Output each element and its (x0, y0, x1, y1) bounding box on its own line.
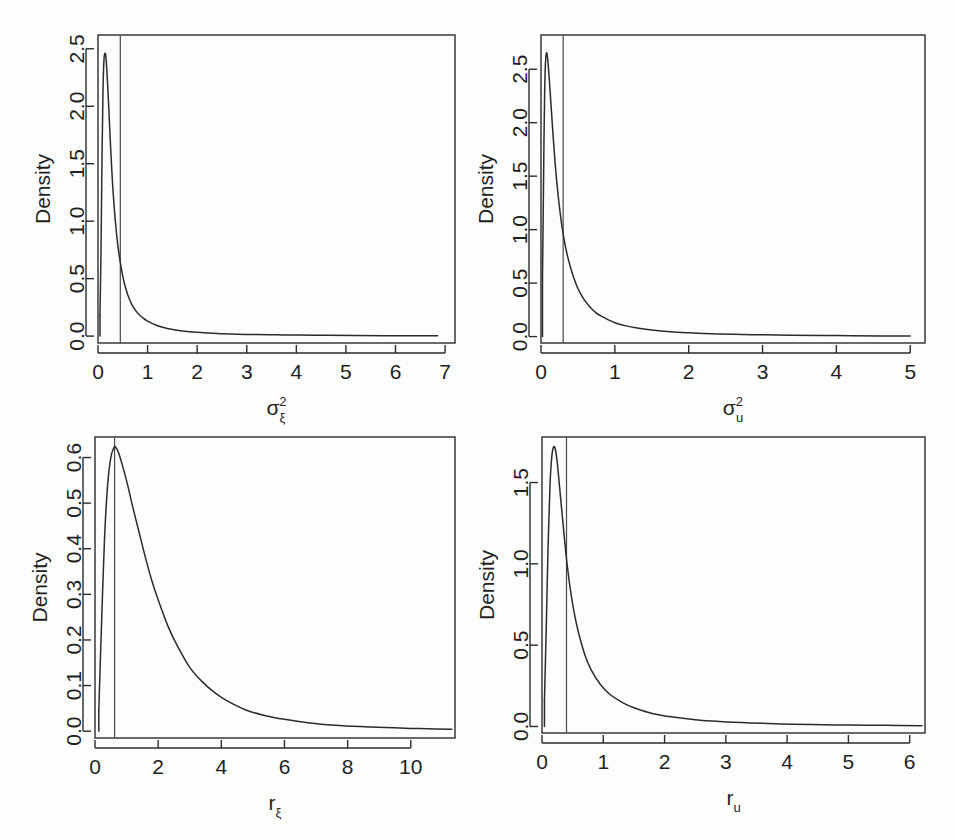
density-curve (100, 53, 438, 336)
y-tick-label: 0.0 (62, 717, 85, 746)
panel-plot-area-1: 0123450.00.51.01.52.02.5Densityσ2u (463, 19, 945, 421)
y-tick-label: 0.2 (62, 625, 85, 654)
density-panel-sigma2-xi: 012345670.00.51.01.52.02.5Densityσ2ξ (20, 19, 475, 421)
y-tick-label: 1.0 (509, 549, 532, 578)
x-tick-label: 0 (535, 360, 547, 383)
y-tick-label: 2.0 (65, 92, 88, 121)
plot-box (98, 35, 455, 343)
figure-canvas: 012345670.00.51.01.52.02.5Densityσ2ξ 012… (0, 0, 955, 840)
x-tick-label: 0 (92, 360, 104, 383)
x-tick-label: 3 (720, 750, 732, 773)
density-panel-sigma2-u: 0123450.00.51.01.52.02.5Densityσ2u (463, 19, 945, 421)
y-tick-label: 0.5 (509, 631, 532, 660)
x-tick-label: 1 (142, 360, 154, 383)
x-tick-label: 2 (683, 360, 695, 383)
x-tick-label: 1 (609, 360, 621, 383)
y-tick-label: 1.5 (508, 162, 531, 191)
y-axis-title: Density (475, 549, 498, 620)
y-tick-label: 1.0 (65, 207, 88, 236)
y-axis-title: Density (31, 153, 54, 224)
plot-box (95, 437, 455, 738)
x-tick-label: 10 (399, 755, 422, 778)
plot-box (542, 437, 925, 733)
density-curve (542, 53, 910, 336)
density-curve (99, 446, 452, 729)
y-tick-label: 0.0 (508, 322, 531, 351)
density-panel-r-xi: 02468100.00.10.20.30.40.50.6Densityrξ (17, 421, 475, 816)
x-axis-title: rξ (269, 791, 282, 820)
x-tick-label: 3 (757, 360, 769, 383)
y-tick-label: 0.5 (62, 489, 85, 518)
y-tick-label: 0.0 (65, 322, 88, 351)
y-tick-label: 0.1 (62, 671, 85, 700)
panel-plot-area-3: 01234560.00.51.01.5Densityru (464, 421, 945, 811)
x-tick-label: 1 (597, 750, 609, 773)
x-tick-label: 7 (439, 360, 451, 383)
x-tick-label: 5 (904, 360, 916, 383)
x-tick-label: 2 (191, 360, 203, 383)
x-tick-label: 5 (843, 750, 855, 773)
x-tick-label: 3 (241, 360, 253, 383)
x-tick-label: 8 (342, 755, 354, 778)
y-tick-label: 2.0 (508, 108, 531, 137)
y-tick-label: 1.5 (65, 149, 88, 178)
x-tick-label: 4 (831, 360, 843, 383)
x-tick-label: 4 (781, 750, 793, 773)
density-curve (544, 446, 921, 725)
x-tick-label: 6 (904, 750, 916, 773)
y-tick-label: 2.5 (65, 34, 88, 63)
y-tick-label: 0.5 (508, 269, 531, 298)
y-tick-label: 0.6 (62, 443, 85, 472)
x-tick-label: 4 (215, 755, 227, 778)
y-tick-label: 1.5 (509, 468, 532, 497)
x-tick-label: 5 (340, 360, 352, 383)
y-tick-label: 2.5 (508, 55, 531, 84)
y-tick-label: 0.3 (62, 580, 85, 609)
y-axis-title: Density (28, 552, 51, 623)
y-tick-label: 0.5 (65, 264, 88, 293)
panel-plot-area-2: 02468100.00.10.20.30.40.50.6Densityrξ (17, 421, 475, 816)
y-tick-label: 0.4 (62, 534, 85, 564)
x-tick-label: 0 (89, 755, 101, 778)
x-tick-label: 4 (290, 360, 302, 383)
y-tick-label: 1.0 (508, 215, 531, 244)
panel-plot-area-0: 012345670.00.51.01.52.02.5Densityσ2ξ (20, 19, 475, 421)
x-tick-label: 6 (390, 360, 402, 383)
x-tick-label: 2 (659, 750, 671, 773)
x-tick-label: 0 (536, 750, 548, 773)
plot-box (541, 35, 925, 343)
density-panel-r-u: 01234560.00.51.01.5Densityru (464, 421, 945, 811)
x-tick-label: 2 (152, 755, 164, 778)
y-axis-title: Density (474, 153, 497, 224)
x-tick-label: 6 (279, 755, 291, 778)
y-tick-label: 0.0 (509, 712, 532, 741)
x-axis-title: ru (726, 786, 740, 815)
